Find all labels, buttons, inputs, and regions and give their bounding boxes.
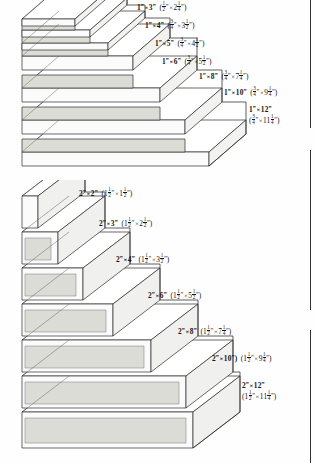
label-1x8-nominal: 1”×8” <box>199 72 218 81</box>
label-1x10-actual: (34”×914”) <box>249 88 278 97</box>
label-2x10-nominal: 2”×10”) <box>212 354 237 363</box>
label-1x4-actual: (34”×312”) <box>166 21 195 30</box>
label-1x10: 1”×10” (34”×914”) <box>224 86 277 98</box>
page-edge-rule-top <box>310 0 311 128</box>
label-2x4-actual: (112”×312”) <box>137 255 169 264</box>
label-2x12-actual: (112”×1114”) <box>242 390 276 402</box>
label-1x12-actual: (34”×1114”) <box>249 114 280 126</box>
label-2x3-nominal: 2”×3” <box>99 219 118 228</box>
label-1x12: 1”×12” (34”×1114”) <box>249 103 280 125</box>
label-2x4-nominal: 2”×4” <box>116 255 135 264</box>
label-1x3: 1”×3” (12”×214”) <box>137 1 187 13</box>
label-1x10-nominal: 1”×10” <box>224 88 247 97</box>
label-2x6: 2”×6” (112”×512”) <box>148 289 201 301</box>
page-edge-rule-bottom <box>310 330 311 463</box>
label-2x6-actual: (112”×512”) <box>169 291 201 300</box>
label-1x4: 1”×4” (34”×312”) <box>145 19 195 31</box>
label-1x8-actual: (34”×714”) <box>220 72 249 81</box>
label-2x3-actual: (112”×212”) <box>120 219 152 228</box>
label-2x10: 2”×10”) (112”×914”) <box>212 352 272 364</box>
label-2x10-actual: (112”×914”) <box>239 354 271 363</box>
label-2x6-nominal: 2”×6” <box>148 291 167 300</box>
label-2x8-actual: (112”×714”) <box>199 327 231 336</box>
label-1x6: 1”×6” (34”×512”) <box>162 55 212 67</box>
label-1x6-actual: (34”×512”) <box>183 57 212 66</box>
label-2x8: 2”×8” (112”×714”) <box>178 325 231 337</box>
label-1x5-nominal: 1”×5” <box>155 39 174 48</box>
label-1x3-nominal: 1”×3” <box>137 3 156 12</box>
page-edge-rule-middle <box>310 150 311 310</box>
two-by-staircase-drawing <box>0 180 315 463</box>
label-1x5: 1”×5” (34”×412”) <box>155 37 205 49</box>
label-2x12-nominal: 2”×12” <box>242 381 265 390</box>
label-1x8: 1”×8” (34”×714”) <box>199 70 249 82</box>
label-2x3: 2”×3” (112”×212”) <box>99 217 152 229</box>
figure-page: 1”×3” (12”×214”) 1”×4” (34”×312”) 1”×5” … <box>0 0 315 463</box>
lumber-figure-one-by: 1”×3” (12”×214”) 1”×4” (34”×312”) 1”×5” … <box>0 0 315 180</box>
label-2x2-actual: (112”×112”) <box>100 189 132 198</box>
label-2x2-nominal: 2”×2” <box>79 189 98 198</box>
label-2x8-nominal: 2”×8” <box>178 327 197 336</box>
lumber-figure-two-by: 2”×2” (112”×112”) 2”×3” (112”×212”) 2”×4… <box>0 180 315 463</box>
label-1x4-nominal: 1”×4” <box>145 21 164 30</box>
label-2x4: 2”×4” (112”×312”) <box>116 253 169 265</box>
label-1x3-actual: (12”×214”) <box>158 3 187 12</box>
label-1x6-nominal: 1”×6” <box>162 57 181 66</box>
label-2x2: 2”×2” (112”×112”) <box>79 187 132 199</box>
label-2x12: 2”×12” (112”×1114”) <box>242 379 276 401</box>
label-1x5-actual: (34”×412”) <box>176 39 205 48</box>
